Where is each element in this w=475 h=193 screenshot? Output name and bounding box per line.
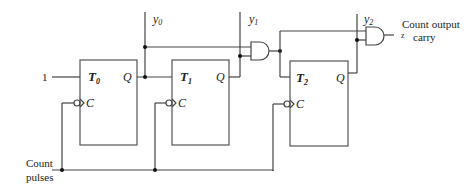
constant-one-label: 1 [42, 71, 48, 83]
junction-dot [153, 168, 157, 172]
clock-bubble [284, 101, 290, 107]
junction-dot [60, 168, 64, 172]
carry-label: carry [413, 31, 436, 43]
z-label: z [401, 31, 405, 40]
t1-q-label: Q [216, 70, 225, 84]
t2-q-label: Q [336, 71, 345, 85]
junction-dot [355, 38, 359, 42]
t1-c-label: C [178, 96, 187, 110]
t0-c-label: C [86, 96, 95, 110]
counter-circuit-diagram: 1 T0 Q C T1 Q C T2 Q C y0 y1 y2 z Count … [0, 0, 475, 193]
pulses-label: pulses [26, 171, 54, 183]
junction-dot [238, 54, 242, 58]
junction-dot [143, 45, 147, 49]
t0-q-label: Q [123, 70, 132, 84]
count-output-label: Count output [402, 18, 460, 30]
y1-label: y1 [248, 12, 258, 27]
y2-label: y2 [363, 12, 373, 27]
clock-bubble [74, 100, 80, 106]
count-label: Count [26, 157, 53, 169]
t2-c-label: C [296, 97, 305, 111]
clock-bubble [166, 100, 172, 106]
y0-label: y0 [152, 12, 162, 27]
and-gate-1 [251, 42, 269, 60]
junction-dot [143, 75, 147, 79]
and-gate-2 [366, 27, 384, 45]
